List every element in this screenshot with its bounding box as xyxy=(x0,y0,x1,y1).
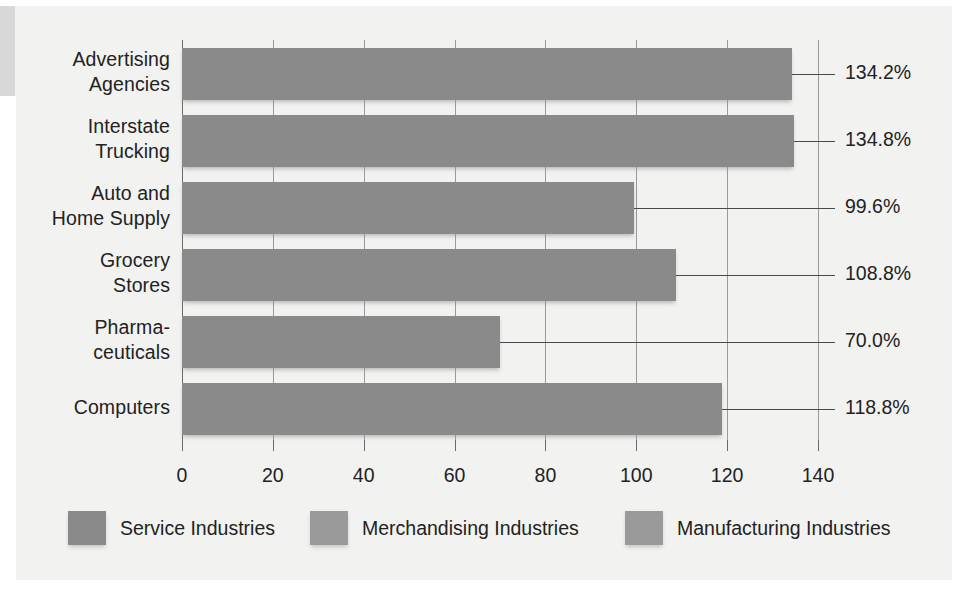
category-label-line: Auto and xyxy=(10,181,170,206)
x-tick-label: 120 xyxy=(697,464,757,487)
x-tick-0 xyxy=(182,440,183,451)
category-label-line: Pharma- xyxy=(10,315,170,340)
x-tick-label: 100 xyxy=(606,464,666,487)
gridline-0 xyxy=(182,40,183,440)
legend-swatch xyxy=(310,511,348,545)
bar[interactable] xyxy=(182,115,794,167)
value-label: 118.8% xyxy=(845,396,910,419)
gridline-140 xyxy=(818,40,819,440)
x-tick-100 xyxy=(636,440,637,451)
page-edge-bottom xyxy=(0,580,964,595)
value-connector-line xyxy=(794,141,835,142)
legend-label: Manufacturing Industries xyxy=(677,517,891,540)
x-tick-80 xyxy=(545,440,546,451)
bar-row xyxy=(182,316,818,368)
gridline-100 xyxy=(636,40,637,440)
legend-item[interactable]: Manufacturing Industries xyxy=(625,508,891,548)
value-connector-line xyxy=(634,208,835,209)
x-tick-label: 20 xyxy=(243,464,303,487)
x-tick-120 xyxy=(727,440,728,451)
category-label-line: ceuticals xyxy=(10,340,170,365)
value-label: 70.0% xyxy=(845,329,900,352)
category-label: Auto andHome Supply xyxy=(10,181,170,231)
category-label-line: Trucking xyxy=(10,139,170,164)
gridline-20 xyxy=(273,40,274,440)
category-axis-labels: AdvertisingAgenciesInterstateTruckingAut… xyxy=(0,0,170,595)
x-tick-label: 140 xyxy=(788,464,848,487)
value-connector-line xyxy=(722,409,835,410)
category-label: Pharma-ceuticals xyxy=(10,315,170,365)
x-tick-label: 60 xyxy=(425,464,485,487)
category-label-line: Interstate xyxy=(10,114,170,139)
gridline-40 xyxy=(364,40,365,440)
category-label-line: Advertising xyxy=(10,47,170,72)
value-connector-line xyxy=(792,74,835,75)
value-label: 99.6% xyxy=(845,195,900,218)
page-edge-left xyxy=(0,96,16,595)
bar-chart-figure: AdvertisingAgenciesInterstateTruckingAut… xyxy=(0,0,964,595)
bar-row xyxy=(182,115,818,167)
bar-row xyxy=(182,182,818,234)
x-tick-60 xyxy=(455,440,456,451)
x-tick-label: 40 xyxy=(334,464,394,487)
value-connector-line xyxy=(676,275,835,276)
x-tick-40 xyxy=(364,440,365,451)
x-tick-label: 0 xyxy=(152,464,212,487)
legend-swatch xyxy=(68,511,106,545)
bar[interactable] xyxy=(182,383,722,435)
legend-label: Merchandising Industries xyxy=(362,517,579,540)
category-label-line: Grocery xyxy=(10,248,170,273)
x-tick-20 xyxy=(273,440,274,451)
category-label: Computers xyxy=(10,395,170,420)
bar-row xyxy=(182,249,818,301)
legend-swatch xyxy=(625,511,663,545)
category-label-line: Home Supply xyxy=(10,206,170,231)
legend-label: Service Industries xyxy=(120,517,275,540)
page-edge-right xyxy=(952,0,964,595)
x-tick-140 xyxy=(818,440,819,451)
bar-row xyxy=(182,383,818,435)
bar[interactable] xyxy=(182,48,792,100)
x-tick-label: 80 xyxy=(515,464,575,487)
category-label: GroceryStores xyxy=(10,248,170,298)
bar[interactable] xyxy=(182,316,500,368)
gridline-60 xyxy=(455,40,456,440)
page-edge-top xyxy=(0,0,964,6)
bar-row xyxy=(182,48,818,100)
value-label: 134.8% xyxy=(845,128,911,151)
bar[interactable] xyxy=(182,182,634,234)
legend-item[interactable]: Service Industries xyxy=(68,508,275,548)
gridline-120 xyxy=(727,40,728,440)
category-label-line: Agencies xyxy=(10,72,170,97)
category-label-line: Stores xyxy=(10,273,170,298)
category-label: InterstateTrucking xyxy=(10,114,170,164)
bar[interactable] xyxy=(182,249,676,301)
value-label: 108.8% xyxy=(845,262,911,285)
value-connector-line xyxy=(500,342,835,343)
category-label-line: Computers xyxy=(10,395,170,420)
value-label: 134.2% xyxy=(845,61,911,84)
chart-legend: Service IndustriesMerchandising Industri… xyxy=(0,508,964,554)
plot-area xyxy=(182,40,818,440)
legend-item[interactable]: Merchandising Industries xyxy=(310,508,579,548)
category-label: AdvertisingAgencies xyxy=(10,47,170,97)
x-axis-tick-labels: 020406080100120140 xyxy=(0,464,964,492)
gridline-80 xyxy=(545,40,546,440)
